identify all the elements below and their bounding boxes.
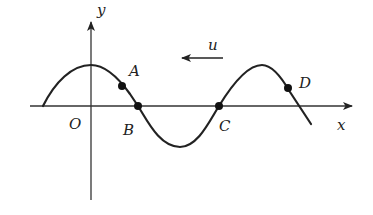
y-axis-label: y xyxy=(96,1,106,19)
point-d-label: D xyxy=(298,74,311,92)
origin-label: O xyxy=(69,115,81,133)
point-b xyxy=(134,102,142,110)
x-axis-label: x xyxy=(337,116,346,134)
point-c-label: C xyxy=(219,117,231,135)
point-a xyxy=(118,82,126,90)
point-a-label: A xyxy=(127,62,140,80)
wave-diagram: u y x O A B C D xyxy=(0,0,373,215)
velocity-label: u xyxy=(208,36,218,54)
point-c xyxy=(215,102,223,110)
point-b-label: B xyxy=(122,121,134,139)
point-d xyxy=(284,84,292,92)
